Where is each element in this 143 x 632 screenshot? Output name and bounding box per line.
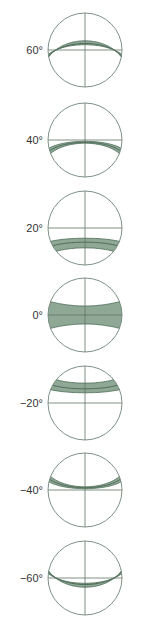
panel-lat-minus20: −20° (20, 366, 126, 440)
latitude-label: 40° (26, 134, 43, 146)
panel-lat-0: 0° (32, 278, 124, 352)
panel-lat-60: 60° (26, 13, 126, 87)
latitude-label: −20° (20, 397, 43, 409)
latitude-label: 0° (32, 309, 43, 321)
latitude-label: −40° (20, 484, 43, 496)
latitude-band-diagram: 60°40°20°0°−20°−40°−60° (0, 0, 143, 632)
panel-lat-minus40: −40° (20, 453, 126, 527)
panel-lat-40: 40° (26, 103, 126, 177)
panel-lat-minus60: −60° (20, 541, 126, 615)
latitude-label: 20° (26, 222, 43, 234)
latitude-label: 60° (26, 44, 43, 56)
latitude-label: −60° (20, 572, 43, 584)
panel-lat-20: 20° (26, 191, 126, 265)
